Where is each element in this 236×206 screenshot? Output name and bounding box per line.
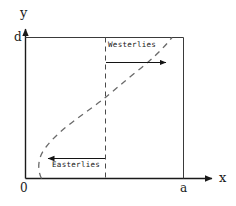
y-axis-label: y [20,6,27,19]
easterlies-label: Easterlies [52,161,100,169]
y-tick-label-d: d [14,31,22,43]
x-axis-label: x [219,171,226,184]
wind-profile-diagram [0,0,236,206]
origin-label: 0 [20,182,28,194]
westerlies-label: Westerlies [108,41,156,49]
x-tick-label-a: a [180,182,187,194]
figure-container: y x d a 0 Westerlies Easterlies [0,0,236,206]
